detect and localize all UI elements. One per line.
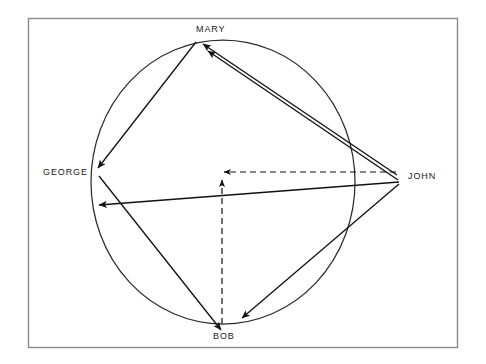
sociogram-diagram [0,0,486,364]
node-label-george: GEORGE [43,167,88,177]
node-label-john: JOHN [408,171,436,181]
node-label-bob: BOB [213,331,235,341]
node-label-mary: MARY [196,24,225,34]
sociogram-page: MARY GEORGE BOB JOHN [0,0,486,364]
